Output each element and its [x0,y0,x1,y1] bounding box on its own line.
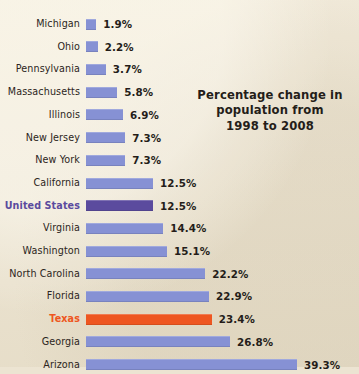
bar-value-label: 39.3% [304,354,340,374]
bar-fill [86,336,230,347]
bar-row: Florida22.9% [0,285,359,308]
bar-row: Arizona39.3% [0,354,359,374]
bar-row: United States12.5% [0,195,359,218]
bar-fill [86,19,96,30]
bar-value-label: 6.9% [130,104,159,127]
bar-category-label: Illinois [0,104,80,127]
bar-value-label: 2.2% [105,36,134,59]
bar-category-label: Virginia [0,217,80,240]
bar-row: Massachusetts5.8% [0,81,359,104]
bar-category-label: United States [0,195,80,218]
bar-category-label: Ohio [0,36,80,59]
bar-category-label: Georgia [0,331,80,354]
bar-fill [86,314,212,325]
bar-fill [86,200,153,211]
bar-fill [86,291,209,302]
bar-fill [86,359,297,370]
bar-value-label: 12.5% [160,172,196,195]
bar-row: New Jersey7.3% [0,127,359,150]
bar-value-label: 1.9% [103,13,132,36]
bar-row: Pennsylvania3.7% [0,58,359,81]
bar-category-label: Washington [0,240,80,263]
bar-value-label: 22.9% [216,285,252,308]
bar-value-label: 14.4% [170,217,206,240]
bar-category-label: North Carolina [0,263,80,286]
bar-category-label: Massachusetts [0,81,80,104]
bar-category-label: Texas [0,308,80,331]
bar-fill [86,223,163,234]
bar-row: California12.5% [0,172,359,195]
bar-row: New York7.3% [0,149,359,172]
bar-category-label: Florida [0,285,80,308]
bar-row: Illinois6.9% [0,104,359,127]
bar-value-label: 15.1% [174,240,210,263]
bar-fill [86,64,106,75]
bar-category-label: Arizona [0,354,80,374]
bar-category-label: California [0,172,80,195]
bar-fill [86,155,125,166]
bar-value-label: 26.8% [237,331,273,354]
bar-row: Michigan1.9% [0,13,359,36]
bar-row: Ohio2.2% [0,36,359,59]
bar-category-label: New York [0,149,80,172]
bar-fill [86,246,167,257]
bar-fill [86,109,123,120]
bar-value-label: 23.4% [219,308,255,331]
bar-row: Texas23.4% [0,308,359,331]
bar-fill [86,268,205,279]
bar-category-label: New Jersey [0,127,80,150]
bar-value-label: 12.5% [160,195,196,218]
bar-value-label: 7.3% [132,149,161,172]
bar-row: Virginia14.4% [0,217,359,240]
bar-category-label: Michigan [0,13,80,36]
bar-fill [86,132,125,143]
bar-value-label: 7.3% [132,127,161,150]
bar-fill [86,87,117,98]
bar-row: North Carolina22.2% [0,263,359,286]
bar-fill [86,178,153,189]
bar-fill [86,41,98,52]
bar-value-label: 3.7% [113,58,142,81]
bar-row: Georgia26.8% [0,331,359,354]
bar-value-label: 5.8% [124,81,153,104]
bar-value-label: 22.2% [212,263,248,286]
bar-category-label: Pennsylvania [0,58,80,81]
bar-row: Washington15.1% [0,240,359,263]
